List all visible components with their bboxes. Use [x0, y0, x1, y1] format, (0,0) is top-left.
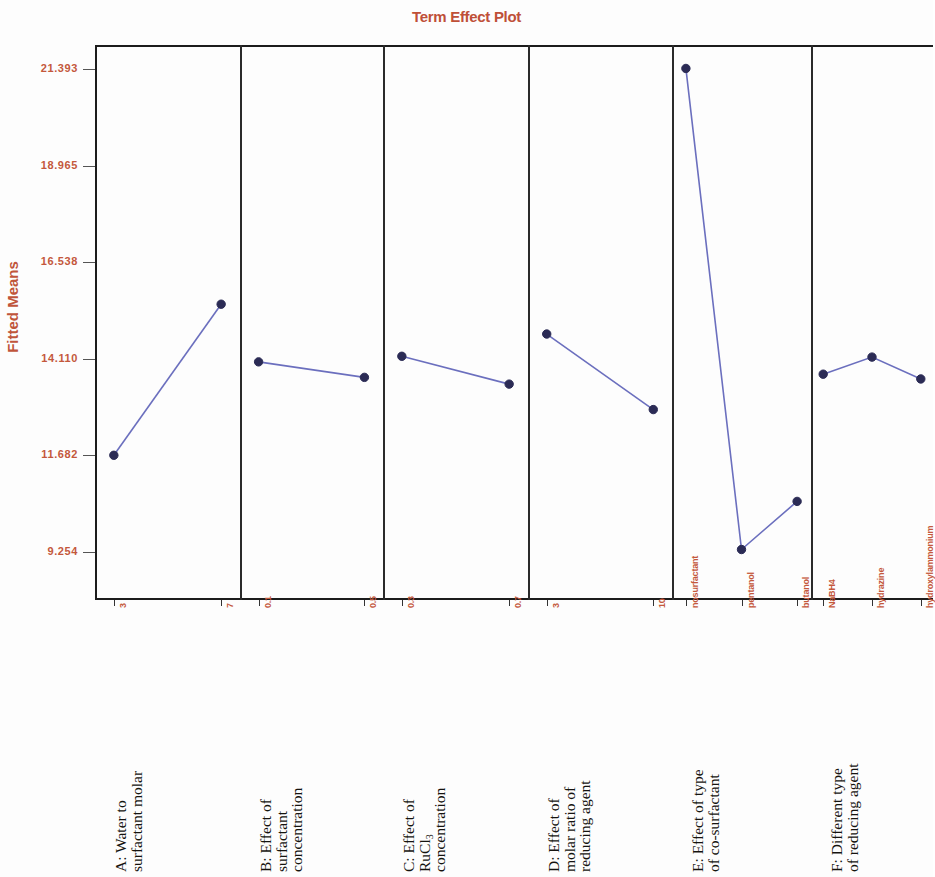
- chart-title: Term Effect Plot: [0, 8, 933, 25]
- series-line: [823, 357, 921, 379]
- series-line: [686, 68, 797, 549]
- data-point-marker: [398, 352, 406, 360]
- panel-description-line: concentration: [432, 788, 448, 872]
- panel-description-b: B: Effect ofsurfactantconcentration: [258, 788, 305, 872]
- panel-description-line: concentration: [289, 788, 305, 872]
- y-tick-label: 11.682: [0, 448, 78, 460]
- series-line: [402, 356, 509, 384]
- panel-description-line: B: Effect of: [258, 788, 274, 872]
- data-point-marker: [737, 545, 745, 553]
- x-tick-label: butanol: [801, 577, 811, 608]
- panel-description-line: A: Water to: [113, 771, 129, 872]
- x-tick-mark: [509, 600, 510, 606]
- x-tick-label: hydrazine: [876, 568, 886, 608]
- panel-description-line: surfactant molar: [129, 771, 145, 872]
- x-tick-mark: [872, 600, 873, 606]
- x-tick-label: 0.5: [368, 596, 378, 608]
- panel-description-line: molar ratio of: [562, 780, 578, 872]
- x-tick-mark: [742, 600, 743, 606]
- y-tick-label: 9.254: [0, 545, 78, 557]
- x-tick-label: 3: [118, 603, 128, 608]
- plot-frame-left: [95, 45, 97, 600]
- data-point-marker: [360, 373, 368, 381]
- series-layer: [95, 45, 933, 600]
- x-tick-label: 10: [657, 598, 667, 608]
- data-point-marker: [917, 375, 925, 383]
- panel-description-e: E: Effect of typeof co-surfactant: [690, 769, 721, 872]
- data-point-marker: [110, 451, 118, 459]
- x-tick-mark: [547, 600, 548, 606]
- y-tick-mark: [83, 359, 95, 360]
- x-tick-mark: [921, 600, 922, 606]
- x-tick-mark: [221, 600, 222, 606]
- panel-description-line: reducing agent: [577, 780, 593, 872]
- panel-description-line: E: Effect of type: [690, 769, 706, 872]
- panel-description-line: RuCl3: [417, 788, 433, 872]
- data-point-marker: [254, 358, 262, 366]
- x-tick-mark: [402, 600, 403, 606]
- x-tick-mark: [259, 600, 260, 606]
- y-tick-mark: [83, 552, 95, 553]
- data-point-marker: [217, 300, 225, 308]
- x-tick-mark: [823, 600, 824, 606]
- data-point-marker: [682, 64, 690, 72]
- panel-description-line: C: Effect of: [401, 788, 417, 872]
- panel-description-line: surfactant: [274, 788, 290, 872]
- data-point-marker: [868, 353, 876, 361]
- data-point-marker: [505, 380, 513, 388]
- panel-description-line: of co-surfactant: [706, 769, 722, 872]
- series-line: [259, 362, 365, 378]
- panel-description-d: D: Effect ofmolar ratio ofreducing agent: [546, 780, 593, 872]
- panel-divider: [383, 45, 385, 600]
- series-line: [547, 334, 654, 410]
- x-tick-label: NaBH4: [827, 579, 837, 608]
- panel-divider: [811, 45, 813, 600]
- panel-divider: [528, 45, 530, 600]
- y-tick-label: 14.110: [0, 352, 78, 364]
- panel-description-line: of reducing agent: [845, 764, 861, 872]
- x-tick-label: pentanol: [746, 572, 756, 608]
- x-tick-label: hydroxylammonium: [925, 526, 935, 608]
- x-tick-mark: [797, 600, 798, 606]
- panel-description-line: F: Different type: [829, 764, 845, 872]
- data-point-marker: [819, 370, 827, 378]
- data-point-marker: [543, 330, 551, 338]
- x-tick-label: 0.7: [513, 596, 523, 608]
- y-tick-mark: [83, 166, 95, 167]
- y-tick-mark: [83, 455, 95, 456]
- y-tick-label: 21.393: [0, 62, 78, 74]
- x-tick-mark: [686, 600, 687, 606]
- panel-divider: [240, 45, 242, 600]
- data-point-marker: [649, 405, 657, 413]
- x-tick-mark: [364, 600, 365, 606]
- panel-divider: [672, 45, 674, 600]
- x-tick-label: 0.1: [263, 596, 273, 608]
- panel-description-line: D: Effect of: [546, 780, 562, 872]
- x-tick-mark: [653, 600, 654, 606]
- data-point-marker: [793, 497, 801, 505]
- panel-description-a: A: Water tosurfactant molar: [113, 771, 144, 872]
- x-tick-label: nosurfactant: [690, 556, 700, 608]
- x-tick-label: 0.3: [406, 596, 416, 608]
- panel-description-f: F: Different typeof reducing agent: [829, 764, 860, 872]
- x-tick-label: 7: [225, 603, 235, 608]
- x-tick-mark: [114, 600, 115, 606]
- plot-frame-top: [95, 45, 933, 47]
- y-tick-label: 16.538: [0, 255, 78, 267]
- y-tick-mark: [83, 262, 95, 263]
- y-tick-label: 18.965: [0, 159, 78, 171]
- series-line: [114, 304, 221, 455]
- panel-description-c: C: Effect ofRuCl3concentration: [401, 788, 448, 872]
- x-tick-label: 3: [551, 603, 561, 608]
- plot-area: 21.39318.96516.53814.11011.6829.254 370.…: [95, 45, 933, 600]
- y-tick-mark: [83, 69, 95, 70]
